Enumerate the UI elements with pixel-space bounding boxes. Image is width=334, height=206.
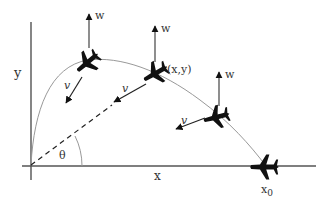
velocity-arrow: [114, 84, 146, 102]
point-label: (x,y): [167, 63, 192, 76]
angle-arc: [75, 136, 82, 166]
launch-direction-dashed: [31, 105, 112, 165]
plane-4-landed: [250, 155, 278, 180]
airplane-icon: [201, 102, 233, 131]
airplane-icon: [70, 45, 105, 80]
airplane-icon: [250, 155, 278, 180]
weight-label-3: w: [225, 68, 235, 81]
x0-label: x0: [261, 183, 273, 198]
plane-1: [66, 14, 105, 103]
weight-label-1: w: [95, 9, 105, 22]
weight-label-2: w: [161, 22, 171, 35]
y-axis-label: y: [13, 65, 22, 80]
velocity-label-1: v: [64, 79, 71, 92]
axes: [22, 22, 316, 180]
trajectory-diagram: y x θ (x,y) x0 w w w v v v: [0, 0, 334, 206]
angle-label: θ: [59, 149, 66, 162]
velocity-label-2: v: [122, 82, 129, 95]
velocity-label-3: v: [181, 114, 188, 127]
x-axis-label: x: [154, 169, 161, 183]
